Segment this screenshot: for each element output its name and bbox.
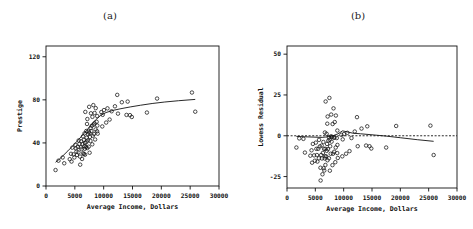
scatter-plot-prestige: 05000100001500020000250003000004080120Av… xyxy=(0,0,236,229)
data-point xyxy=(108,118,112,122)
data-point xyxy=(334,114,338,118)
y-tick-label: 25 xyxy=(274,91,282,98)
data-point xyxy=(104,121,108,125)
data-point xyxy=(336,143,340,147)
data-point xyxy=(80,157,84,161)
data-point xyxy=(54,168,58,172)
data-point xyxy=(87,105,91,109)
x-tick-label: 5000 xyxy=(308,194,323,201)
data-point xyxy=(394,124,398,128)
data-point xyxy=(348,149,352,153)
data-point xyxy=(155,97,159,101)
data-point xyxy=(86,117,90,121)
data-point xyxy=(93,138,97,142)
data-point xyxy=(193,110,197,114)
data-point xyxy=(106,107,110,111)
data-point xyxy=(102,108,106,112)
data-point xyxy=(326,122,330,126)
data-point xyxy=(310,149,314,153)
data-point xyxy=(115,93,119,97)
plot-frame xyxy=(46,46,219,186)
x-tick-label: 20000 xyxy=(152,192,171,199)
data-point xyxy=(96,124,100,128)
data-point xyxy=(91,143,95,147)
data-point xyxy=(356,144,360,148)
x-tick-label: 20000 xyxy=(391,194,410,201)
data-point xyxy=(344,152,348,156)
scatter-plot-lowess-residual: 050001000015000200002500030000-2502550Av… xyxy=(237,0,473,229)
data-point xyxy=(341,138,345,142)
data-point xyxy=(322,140,326,144)
data-point xyxy=(93,111,97,115)
data-point xyxy=(329,113,333,117)
x-tick-label: 30000 xyxy=(210,192,229,199)
x-tick-label: 15000 xyxy=(363,194,382,201)
data-point xyxy=(331,163,335,167)
chart-panel-a: (a) 050001000015000200002500030000040801… xyxy=(0,0,236,229)
y-tick-label: 50 xyxy=(274,50,282,57)
x-tick-label: 25000 xyxy=(419,194,438,201)
data-points xyxy=(54,91,197,172)
x-tick-label: 10000 xyxy=(334,194,353,201)
x-tick-label: 25000 xyxy=(181,192,200,199)
y-tick-label: 0 xyxy=(36,182,40,189)
data-point xyxy=(88,151,92,155)
data-point xyxy=(366,125,370,129)
data-point xyxy=(326,115,330,119)
data-point xyxy=(364,144,368,148)
data-point xyxy=(332,107,336,111)
data-point xyxy=(334,160,338,164)
data-point xyxy=(126,100,130,104)
x-tick-label: 0 xyxy=(44,192,48,199)
data-point xyxy=(94,106,98,110)
data-point xyxy=(92,103,96,107)
data-point xyxy=(317,138,321,142)
x-axis-label: Average Income, Dollars xyxy=(326,205,417,213)
data-point xyxy=(62,162,66,166)
y-tick-label: 120 xyxy=(29,53,40,60)
data-point xyxy=(96,132,100,136)
x-axis-label: Average Income, Dollars xyxy=(87,203,178,211)
data-point xyxy=(384,146,388,150)
data-point xyxy=(190,91,194,95)
data-point xyxy=(145,111,149,115)
data-point xyxy=(309,154,313,158)
x-tick-label: 30000 xyxy=(448,194,467,201)
data-point xyxy=(323,169,327,173)
data-point xyxy=(125,113,129,117)
data-point xyxy=(328,96,332,100)
data-point xyxy=(297,137,301,141)
data-point xyxy=(324,100,328,104)
y-tick-label: 40 xyxy=(33,139,41,146)
data-point xyxy=(324,163,328,167)
data-point xyxy=(432,153,436,157)
plot-frame xyxy=(287,46,457,188)
y-axis-label: Prestige xyxy=(16,100,24,132)
data-point xyxy=(295,146,299,150)
data-point xyxy=(336,156,340,160)
data-point xyxy=(101,125,105,129)
data-point xyxy=(314,141,318,145)
x-tick-label: 5000 xyxy=(67,192,82,199)
data-point xyxy=(303,151,307,155)
data-point xyxy=(321,173,325,177)
data-point xyxy=(331,122,335,126)
y-axis-label: Lowess Residual xyxy=(257,87,265,147)
x-tick-label: 0 xyxy=(285,194,289,201)
data-point xyxy=(302,137,306,141)
data-point xyxy=(333,120,337,124)
x-tick-label: 15000 xyxy=(123,192,142,199)
y-tick-label: 0 xyxy=(277,132,281,139)
data-point xyxy=(113,105,117,109)
data-point xyxy=(328,169,332,173)
x-tick-label: 10000 xyxy=(94,192,113,199)
data-point xyxy=(355,115,359,119)
data-point xyxy=(336,129,340,133)
data-point xyxy=(85,122,89,126)
data-point xyxy=(89,112,93,116)
data-point xyxy=(319,179,323,183)
data-point xyxy=(78,163,82,167)
data-point xyxy=(328,144,332,148)
data-point xyxy=(341,155,345,159)
figure-canvas: (a) 050001000015000200002500030000040801… xyxy=(0,0,473,229)
